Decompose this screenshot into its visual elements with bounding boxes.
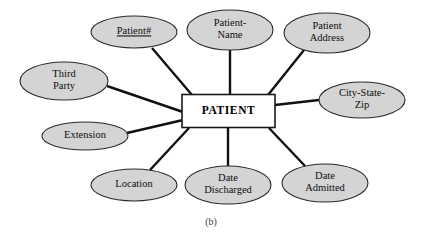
conn-patient-address — [268, 50, 304, 95]
attribute-label-date-admitted: Admitted — [305, 182, 345, 193]
attribute-label-patient-address: Patient — [312, 20, 341, 31]
figure-caption: (b) — [0, 216, 422, 227]
er-diagram-canvas: Patient#Patient-NamePatientAddressCity-S… — [0, 0, 422, 240]
attribute-label-city-state-zip: Zip — [355, 99, 370, 110]
attribute-patient-address[interactable]: PatientAddress — [284, 13, 370, 53]
attribute-label-date-discharged: Discharged — [204, 184, 252, 195]
attribute-label-third-party: Third — [52, 68, 76, 79]
entity-label-patient: PATIENT — [202, 104, 256, 116]
conn-patient-number — [152, 48, 192, 95]
attribute-label-third-party: Party — [53, 80, 76, 91]
attribute-label-date-admitted: Date — [315, 170, 335, 181]
entity-patient[interactable]: PATIENT — [182, 95, 275, 128]
conn-date-admitted — [269, 128, 305, 166]
attribute-extension[interactable]: Extension — [42, 122, 128, 150]
attribute-label-patient-name: Patient- — [214, 17, 247, 28]
attribute-label-extension: Extension — [64, 129, 107, 140]
attribute-city-state-zip[interactable]: City-State-Zip — [319, 82, 405, 118]
conn-third-party — [107, 86, 183, 112]
er-diagram-figure: Patient#Patient-NamePatientAddressCity-S… — [0, 0, 422, 240]
attribute-label-location: Location — [115, 178, 153, 189]
attribute-third-party[interactable]: ThirdParty — [20, 62, 108, 100]
attribute-label-patient-number: Patient# — [117, 25, 152, 36]
conn-extension — [127, 120, 183, 133]
conn-location — [150, 128, 189, 170]
attribute-label-patient-name: Name — [217, 29, 242, 40]
attribute-label-date-discharged: Date — [218, 172, 238, 183]
conn-city-state-zip — [275, 100, 319, 105]
attribute-label-city-state-zip: City-State- — [339, 87, 386, 98]
attribute-patient-number[interactable]: Patient# — [91, 16, 177, 48]
attribute-patient-name[interactable]: Patient-Name — [187, 10, 273, 50]
attribute-date-discharged[interactable]: DateDischarged — [185, 166, 271, 204]
attribute-date-admitted[interactable]: DateAdmitted — [282, 164, 368, 202]
entity-layer: PATIENT — [182, 95, 275, 128]
attribute-location[interactable]: Location — [91, 169, 177, 201]
attribute-label-patient-address: Address — [310, 32, 344, 43]
